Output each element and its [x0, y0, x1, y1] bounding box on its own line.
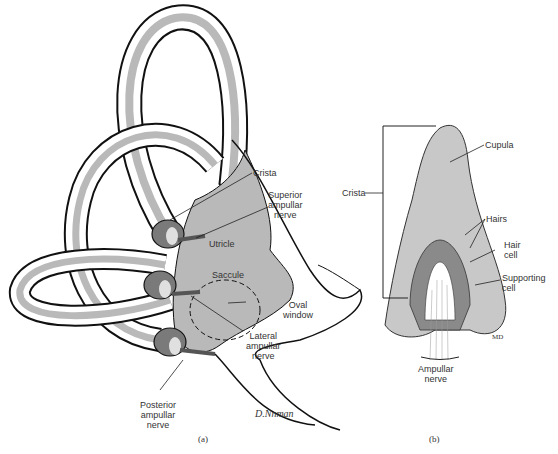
label-superior-ampullar-nerve: Superior ampullar nerve: [268, 190, 303, 220]
caption-a: (a): [198, 434, 208, 444]
label-lateral-ampullar-nerve: Lateral ampullar nerve: [246, 331, 281, 361]
ampulla-superior: [152, 220, 184, 248]
label-saccule: Saccule: [212, 270, 244, 280]
label-ampullar-nerve: Ampullar nerve: [418, 364, 454, 384]
label-hair-cell: Hair cell: [504, 240, 521, 260]
label-posterior-ampullar-nerve: Posterior ampullar nerve: [140, 400, 176, 430]
label-oval-window: Oval window: [283, 300, 313, 320]
ampulla-lateral: [144, 271, 176, 299]
label-crista-a: Crista: [253, 168, 277, 178]
label-hairs: Hairs: [486, 214, 507, 224]
label-utricle: Utricle: [209, 239, 235, 249]
label-supporting-cell: Supporting cell: [502, 273, 546, 293]
label-crista-b: Crista: [342, 188, 366, 198]
inner-ear-diagram: [0, 0, 558, 454]
artist-signature: D.Nnman: [255, 408, 294, 419]
artist-initials: MD: [492, 333, 503, 341]
utricle-saccule: [173, 150, 293, 352]
label-cupula: Cupula: [485, 140, 514, 150]
crista-section: [385, 125, 506, 360]
caption-b: (b): [429, 434, 440, 444]
